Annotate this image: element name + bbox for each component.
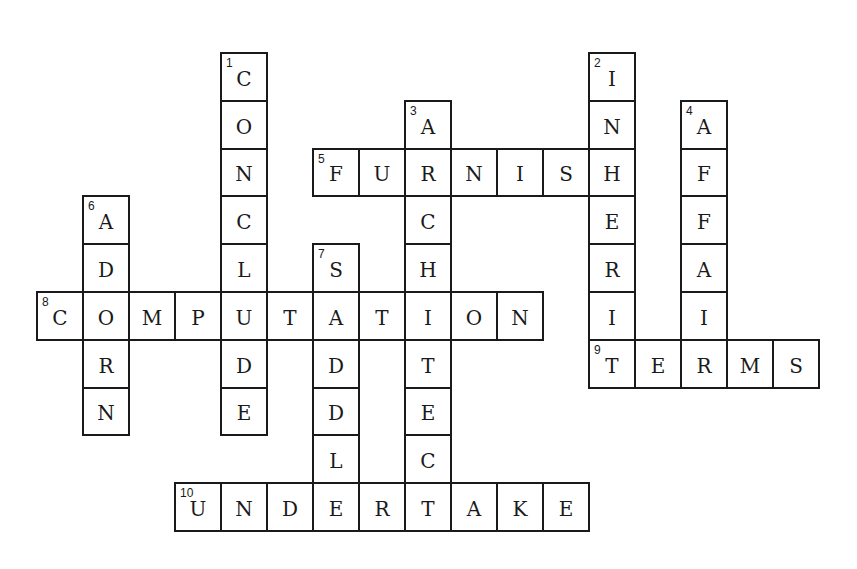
- crossword-cell[interactable]: N: [82, 387, 130, 437]
- crossword-cell[interactable]: E: [404, 387, 452, 437]
- crossword-cell[interactable]: S: [772, 339, 820, 389]
- crossword-cell[interactable]: N: [588, 100, 636, 150]
- crossword-cell[interactable]: R: [358, 482, 406, 532]
- crossword-cell[interactable]: 3A: [404, 100, 452, 150]
- crossword-cell[interactable]: 4A: [680, 100, 728, 150]
- cell-letter: E: [421, 401, 436, 425]
- clue-number: 2: [594, 56, 601, 70]
- crossword-cell[interactable]: T: [404, 339, 452, 389]
- crossword-cell[interactable]: T: [266, 291, 314, 341]
- cell-letter: U: [190, 497, 207, 521]
- cell-letter: R: [420, 162, 435, 186]
- crossword-cell[interactable]: D: [312, 387, 360, 437]
- crossword-cell[interactable]: 5F: [312, 148, 360, 198]
- crossword-cell[interactable]: F: [680, 195, 728, 245]
- crossword-cell[interactable]: 10U: [174, 482, 222, 532]
- cell-letter: U: [374, 162, 391, 186]
- crossword-cell[interactable]: 9T: [588, 339, 636, 389]
- cell-letter: S: [789, 354, 803, 378]
- crossword-cell[interactable]: 1C: [220, 52, 268, 102]
- cell-letter: A: [467, 497, 481, 521]
- crossword-cell[interactable]: L: [312, 434, 360, 484]
- cell-letter: E: [651, 354, 666, 378]
- crossword-cell[interactable]: I: [404, 291, 452, 341]
- crossword-cell[interactable]: K: [496, 482, 544, 532]
- crossword-cell[interactable]: D: [220, 339, 268, 389]
- crossword-cell[interactable]: C: [220, 195, 268, 245]
- crossword-cell[interactable]: N: [220, 482, 268, 532]
- clue-number: 10: [180, 486, 193, 500]
- crossword-cell[interactable]: S: [542, 148, 590, 198]
- crossword-cell[interactable]: 7S: [312, 243, 360, 293]
- crossword-cell[interactable]: O: [450, 291, 498, 341]
- clue-number: 3: [410, 104, 417, 118]
- crossword-cell[interactable]: T: [404, 482, 452, 532]
- crossword-cell[interactable]: N: [496, 291, 544, 341]
- cell-letter: I: [608, 306, 616, 330]
- crossword-cell[interactable]: M: [128, 291, 176, 341]
- cell-letter: L: [237, 258, 250, 282]
- crossword-cell[interactable]: R: [680, 339, 728, 389]
- clue-number: 6: [88, 199, 95, 213]
- crossword-cell[interactable]: T: [358, 291, 406, 341]
- crossword-cell[interactable]: D: [82, 243, 130, 293]
- crossword-cell[interactable]: L: [220, 243, 268, 293]
- crossword-cell[interactable]: A: [450, 482, 498, 532]
- crossword-cell[interactable]: R: [82, 339, 130, 389]
- crossword-cell[interactable]: C: [404, 434, 452, 484]
- clue-number: 7: [318, 247, 325, 261]
- cell-letter: S: [329, 258, 343, 282]
- crossword-cell[interactable]: M: [726, 339, 774, 389]
- crossword-cell[interactable]: U: [220, 291, 268, 341]
- crossword-cell[interactable]: 6A: [82, 195, 130, 245]
- crossword-cell[interactable]: E: [220, 387, 268, 437]
- cell-letter: I: [516, 162, 524, 186]
- crossword-cell[interactable]: C: [404, 195, 452, 245]
- crossword-cell[interactable]: I: [496, 148, 544, 198]
- crossword-cell[interactable]: 8C: [36, 291, 84, 341]
- crossword-cell[interactable]: P: [174, 291, 222, 341]
- crossword-cell[interactable]: I: [680, 291, 728, 341]
- crossword-cell[interactable]: H: [588, 148, 636, 198]
- crossword-cell[interactable]: H: [404, 243, 452, 293]
- crossword-cell[interactable]: R: [588, 243, 636, 293]
- crossword-cell[interactable]: E: [588, 195, 636, 245]
- cell-letter: T: [375, 306, 388, 330]
- cell-letter: T: [605, 354, 618, 378]
- cell-letter: C: [420, 449, 435, 473]
- crossword-cell[interactable]: U: [358, 148, 406, 198]
- cell-letter: R: [374, 497, 389, 521]
- crossword-cell[interactable]: E: [312, 482, 360, 532]
- cell-letter: O: [98, 306, 114, 330]
- crossword-cell[interactable]: E: [542, 482, 590, 532]
- crossword-cell[interactable]: E: [634, 339, 682, 389]
- crossword-cell[interactable]: R: [404, 148, 452, 198]
- cell-letter: E: [559, 497, 574, 521]
- cell-letter: N: [465, 162, 483, 186]
- crossword-cell[interactable]: D: [266, 482, 314, 532]
- cell-letter: D: [98, 258, 114, 282]
- cell-letter: A: [697, 115, 711, 139]
- cell-letter: P: [191, 306, 204, 330]
- cell-letter: D: [328, 401, 344, 425]
- clue-number: 1: [226, 56, 233, 70]
- crossword-cell[interactable]: D: [312, 339, 360, 389]
- crossword-grid: 1CONCLUDE2INHERI9T3ARCHITECT4AFFAIR5FUNI…: [0, 0, 857, 569]
- crossword-cell[interactable]: A: [680, 243, 728, 293]
- clue-number: 5: [318, 152, 325, 166]
- cell-letter: C: [420, 210, 435, 234]
- crossword-cell[interactable]: N: [450, 148, 498, 198]
- crossword-cell[interactable]: A: [312, 291, 360, 341]
- crossword-cell[interactable]: O: [82, 291, 130, 341]
- crossword-cell[interactable]: N: [220, 148, 268, 198]
- crossword-cell[interactable]: F: [680, 148, 728, 198]
- crossword-cell[interactable]: O: [220, 100, 268, 150]
- cell-letter: N: [235, 497, 253, 521]
- clue-number: 8: [42, 295, 49, 309]
- crossword-cell[interactable]: I: [588, 291, 636, 341]
- cell-letter: A: [697, 258, 711, 282]
- cell-letter: D: [282, 497, 298, 521]
- cell-letter: N: [603, 115, 621, 139]
- cell-letter: R: [604, 258, 619, 282]
- crossword-cell[interactable]: 2I: [588, 52, 636, 102]
